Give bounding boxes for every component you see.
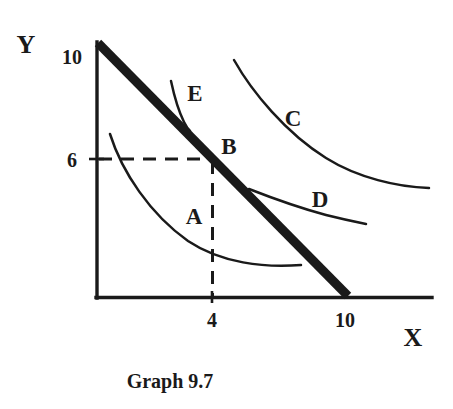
indifference-curve-c bbox=[234, 60, 429, 188]
y-tick-label-6: 6 bbox=[67, 150, 77, 170]
curve-label-c: C bbox=[285, 107, 302, 130]
curve-label-e: E bbox=[187, 82, 202, 105]
x-tick-label-4: 4 bbox=[207, 310, 217, 330]
tick-marks bbox=[89, 159, 212, 303]
figure-caption: Graph 9.7 bbox=[127, 371, 214, 391]
curve-label-a: A bbox=[186, 205, 203, 228]
y-axis-label: Y bbox=[17, 32, 36, 58]
graph-figure: Y 10 6 4 10 X A B C D E Graph 9.7 bbox=[0, 0, 453, 409]
y-tick-label-10: 10 bbox=[62, 47, 82, 67]
x-tick-label-10: 10 bbox=[335, 310, 355, 330]
axis-lines bbox=[96, 42, 432, 298]
curve-label-b: B bbox=[221, 135, 236, 158]
curve-label-d: D bbox=[312, 188, 329, 211]
x-axis-label: X bbox=[404, 325, 423, 351]
